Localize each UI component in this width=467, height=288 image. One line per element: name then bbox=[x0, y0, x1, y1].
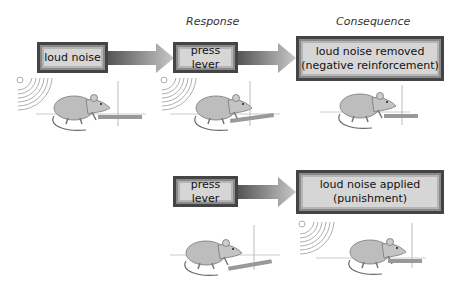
rat-icon bbox=[339, 93, 396, 129]
stimulus-label: loud noise bbox=[40, 45, 105, 70]
consequence-text-top: loud noise removed (negative reinforceme… bbox=[299, 39, 441, 78]
arrow-icon bbox=[108, 43, 174, 73]
rat-icon bbox=[349, 239, 406, 275]
stimulus-box: loud noise bbox=[37, 42, 108, 73]
consequence-box-bottom: loud noise applied (punishment) bbox=[296, 170, 444, 214]
consequence-line1: loud noise removed bbox=[316, 45, 425, 59]
consequence-line2: (punishment) bbox=[333, 192, 407, 206]
rat-icon bbox=[195, 95, 252, 131]
response-box-top: press lever bbox=[173, 42, 238, 73]
rat-scene-5 bbox=[296, 218, 436, 284]
rat-scene-4 bbox=[170, 225, 290, 287]
response-box-bottom: press lever bbox=[173, 176, 238, 207]
consequence-line2: (negative reinforcement) bbox=[301, 59, 439, 73]
consequence-header: Consequence bbox=[336, 15, 410, 28]
rat-scene-3 bbox=[320, 80, 430, 140]
arrow-icon bbox=[238, 177, 296, 207]
arrow-icon bbox=[238, 43, 296, 73]
sound-waves-icon bbox=[299, 221, 334, 254]
response-header: Response bbox=[186, 15, 239, 28]
response-label-top: press lever bbox=[176, 45, 235, 70]
consequence-text-bottom: loud noise applied (punishment) bbox=[299, 173, 441, 211]
rat-icon bbox=[53, 95, 110, 131]
rat-icon bbox=[185, 240, 242, 276]
response-label-bottom: press lever bbox=[176, 179, 235, 204]
rat-scene-2 bbox=[160, 76, 280, 138]
consequence-box-top: loud noise removed (negative reinforceme… bbox=[296, 36, 444, 81]
sound-waves-icon bbox=[161, 77, 196, 110]
consequence-line1: loud noise applied bbox=[320, 178, 421, 192]
sound-waves-icon bbox=[17, 77, 52, 110]
rat-scene-1 bbox=[16, 76, 146, 138]
